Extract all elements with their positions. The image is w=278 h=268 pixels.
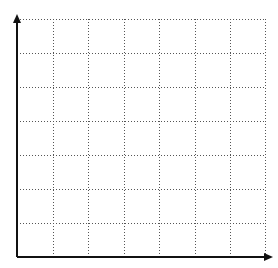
x-axis-arrowhead-icon (264, 253, 273, 261)
y-axis-arrowhead-icon (13, 14, 21, 23)
coordinate-grid (0, 0, 278, 268)
dotted-grid-lines (17, 19, 266, 257)
